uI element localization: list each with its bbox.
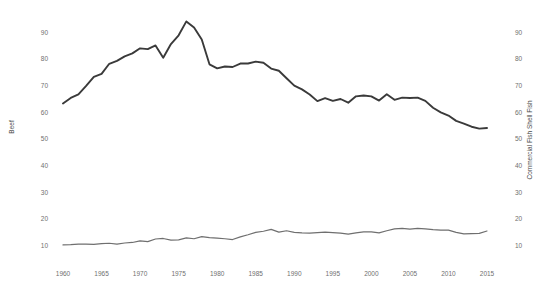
y-tick-30: 30 <box>41 189 49 196</box>
y2-tick-50: 50 <box>515 135 523 142</box>
x-tick-2000: 2000 <box>364 270 379 277</box>
y-axis-right-title: Commercial Fish Shell Fish <box>526 100 533 179</box>
x-tick-1970: 1970 <box>133 270 148 277</box>
y-tick-60: 60 <box>41 109 49 116</box>
x-tick-1960: 1960 <box>56 270 71 277</box>
y2-tick-30: 30 <box>515 189 523 196</box>
y2-tick-40: 40 <box>515 162 523 169</box>
y-tick-90: 90 <box>41 29 49 36</box>
x-tick-1985: 1985 <box>248 270 263 277</box>
y-tick-40: 40 <box>41 162 49 169</box>
x-tick-2010: 2010 <box>441 270 456 277</box>
series-line-beef <box>63 21 487 128</box>
y-axis-right-tick-labels: 102030405060708090 <box>515 29 523 249</box>
y-tick-50: 50 <box>41 135 49 142</box>
x-tick-1995: 1995 <box>326 270 341 277</box>
x-tick-2015: 2015 <box>480 270 495 277</box>
y2-tick-10: 10 <box>515 242 523 249</box>
y-tick-10: 10 <box>41 242 49 249</box>
series-line-commercial-fish-shell-fish <box>63 228 487 245</box>
dual-axis-line-chart: 102030405060708090 102030405060708090 19… <box>0 0 546 294</box>
chart-canvas: 102030405060708090 102030405060708090 19… <box>0 0 546 294</box>
y2-tick-70: 70 <box>515 82 523 89</box>
y-tick-70: 70 <box>41 82 49 89</box>
y2-tick-60: 60 <box>515 109 523 116</box>
y-axis-left-tick-labels: 102030405060708090 <box>41 29 49 249</box>
y-tick-80: 80 <box>41 55 49 62</box>
y-tick-20: 20 <box>41 215 49 222</box>
y2-tick-90: 90 <box>515 29 523 36</box>
x-tick-1965: 1965 <box>94 270 109 277</box>
x-tick-1990: 1990 <box>287 270 302 277</box>
y2-tick-80: 80 <box>515 55 523 62</box>
x-tick-1975: 1975 <box>171 270 186 277</box>
x-tick-1980: 1980 <box>210 270 225 277</box>
y-axis-left-title: Beef <box>8 120 15 134</box>
x-tick-2005: 2005 <box>403 270 418 277</box>
series-lines <box>63 21 487 244</box>
x-axis-tick-labels: 1960196519701975198019851990199520002005… <box>56 270 495 277</box>
y2-tick-20: 20 <box>515 215 523 222</box>
